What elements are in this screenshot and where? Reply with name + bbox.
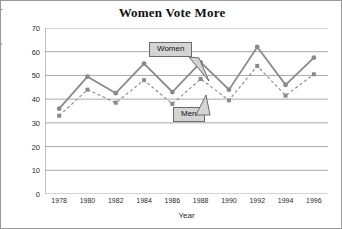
data-point-men <box>312 72 316 76</box>
y-tick-label: 0 <box>24 190 40 199</box>
x-tick-label: 1992 <box>244 197 270 204</box>
x-tick-label: 1980 <box>74 197 100 204</box>
y-tick-label: 30 <box>24 119 40 128</box>
data-point-women <box>113 91 118 96</box>
data-point-men <box>284 94 288 98</box>
callout-men-pointer <box>190 94 220 116</box>
y-tick-label: 40 <box>24 95 40 104</box>
data-point-men <box>114 101 118 105</box>
y-tick-label: 10 <box>24 166 40 175</box>
data-point-men <box>57 114 61 118</box>
data-point-women <box>85 74 90 79</box>
y-tick-label: 60 <box>24 48 40 57</box>
data-point-men <box>255 64 259 68</box>
data-point-men <box>85 88 89 92</box>
x-tick-label: 1988 <box>188 197 214 204</box>
data-point-men <box>170 102 174 106</box>
x-tick-label: 1986 <box>159 197 185 204</box>
x-tick-label: 1996 <box>301 197 327 204</box>
x-tick-label: 1982 <box>103 197 129 204</box>
y-axis-title: Voters (in millions) <box>0 8 2 69</box>
x-tick-label: 1990 <box>216 197 242 204</box>
data-point-women <box>283 83 288 88</box>
chart-screenshot: Women Vote More Voters (in millions) Yea… <box>0 0 342 229</box>
x-tick-label: 1978 <box>46 197 72 204</box>
callout-women-pointer <box>187 56 227 82</box>
x-tick-label: 1994 <box>273 197 299 204</box>
data-point-women <box>57 106 62 111</box>
data-point-men <box>227 98 231 102</box>
data-point-women <box>142 61 147 66</box>
chart-title: Women Vote More <box>1 5 342 21</box>
y-tick-label: 50 <box>24 71 40 80</box>
data-point-women <box>255 45 260 50</box>
y-tick-label: 20 <box>24 143 40 152</box>
data-point-men <box>142 78 146 82</box>
x-tick-label: 1984 <box>131 197 157 204</box>
data-point-women <box>170 90 175 95</box>
y-tick-label: 70 <box>24 24 40 33</box>
data-point-women <box>227 87 232 92</box>
x-axis-title: Year <box>45 211 328 220</box>
data-point-women <box>311 55 316 60</box>
callout-women: Women <box>149 42 192 57</box>
